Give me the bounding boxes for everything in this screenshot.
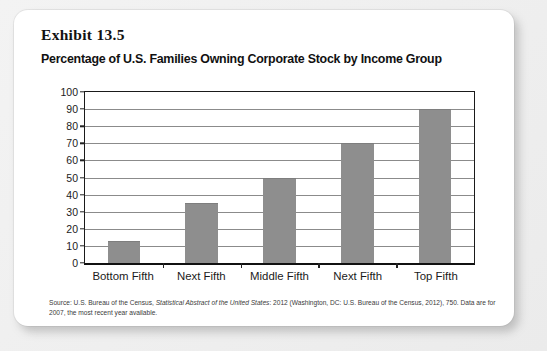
chart-title: Percentage of U.S. Families Owning Corpo… — [41, 52, 442, 66]
source-line1-post: : 2012 (Washington, DC: U.S. Bureau of t… — [269, 299, 423, 306]
source-note: Source: U.S. Bureau of the Census, Stati… — [49, 298, 499, 318]
y-axis-label: 20 — [66, 223, 78, 235]
page-background: Exhibit 13.5 Percentage of U.S. Families… — [0, 0, 547, 351]
x-axis-category-label: Bottom Fifth — [84, 270, 162, 282]
bar[interactable] — [419, 109, 452, 263]
x-axis-category-label: Next Fifth — [162, 270, 240, 282]
x-axis-category-label: Middle Fifth — [240, 270, 318, 282]
bar[interactable] — [108, 241, 141, 263]
y-axis-label: 10 — [66, 240, 78, 252]
y-axis-label: 40 — [66, 189, 78, 201]
y-axis-label: 70 — [66, 137, 78, 149]
y-axis-label: 30 — [66, 206, 78, 218]
y-axis-label: 90 — [66, 103, 78, 115]
x-axis-category-label: Next Fifth — [319, 270, 397, 282]
x-axis-tick — [163, 263, 165, 268]
bar-slot — [318, 92, 396, 263]
exhibit-card: Exhibit 13.5 Percentage of U.S. Families… — [14, 10, 514, 326]
bar-slot — [163, 92, 241, 263]
y-axis-label: 50 — [66, 172, 78, 184]
bar-slot — [241, 92, 319, 263]
source-line1-pre: Source: U.S. Bureau of the Census, — [49, 299, 156, 306]
bar[interactable] — [263, 178, 296, 264]
y-axis-label: 60 — [66, 154, 78, 166]
y-axis-label: 0 — [72, 257, 78, 269]
bar[interactable] — [341, 143, 374, 263]
x-axis-labels: Bottom FifthNext FifthMiddle FifthNext F… — [84, 270, 475, 282]
x-axis-tick — [318, 263, 320, 268]
x-axis-tick — [241, 263, 243, 268]
bar[interactable] — [185, 203, 218, 263]
bar-series — [85, 92, 474, 263]
bar-slot — [396, 92, 474, 263]
exhibit-label: Exhibit 13.5 — [41, 26, 125, 44]
bar-slot — [85, 92, 163, 263]
chart-plot: 0102030405060708090100 — [84, 91, 475, 265]
x-axis-category-label: Top Fifth — [397, 270, 475, 282]
source-publication-title: Statistical Abstract of the United State… — [156, 299, 270, 306]
y-axis-label: 80 — [66, 120, 78, 132]
plot-area: 0102030405060708090100 — [84, 91, 475, 265]
y-axis-label: 100 — [60, 86, 78, 98]
x-axis-tick — [396, 263, 398, 268]
